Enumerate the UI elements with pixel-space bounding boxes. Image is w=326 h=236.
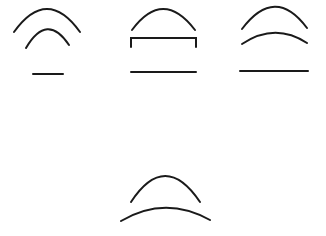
diagram-canvas xyxy=(0,0,326,236)
inner-arc xyxy=(26,29,69,48)
bracket xyxy=(131,38,196,47)
arc xyxy=(132,9,195,30)
figure-3 xyxy=(240,7,308,71)
figure-1 xyxy=(14,9,80,74)
figure-4 xyxy=(121,176,210,221)
upper-arc xyxy=(131,176,200,202)
inner-arc xyxy=(242,33,307,44)
outer-arc xyxy=(242,7,307,29)
figure-2 xyxy=(131,9,196,72)
lower-arc xyxy=(121,208,210,221)
